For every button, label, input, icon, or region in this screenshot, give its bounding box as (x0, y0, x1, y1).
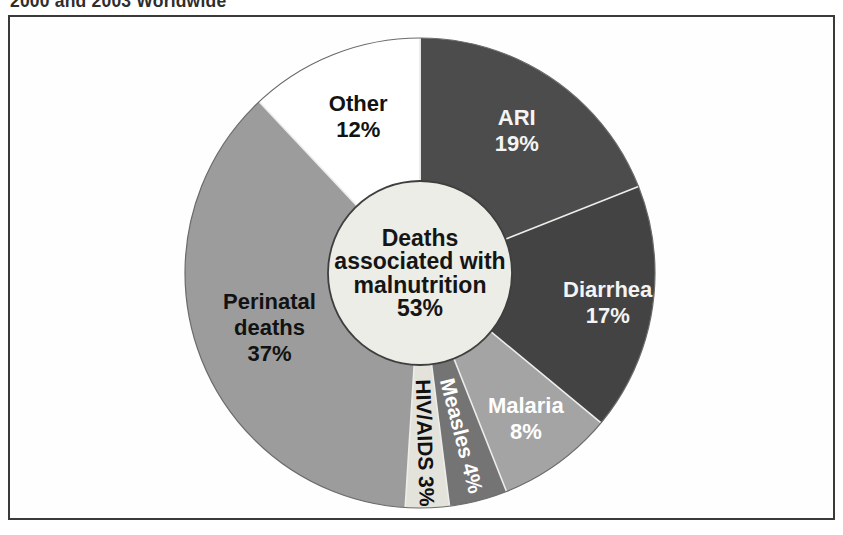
figure-scan: 2000 and 2003 Worldwide ARI19%Diarrhea17… (0, 0, 843, 535)
center-label-line: 53% (397, 295, 443, 321)
slice-label-text: 17% (586, 303, 630, 328)
slice-label-text: Other (329, 91, 388, 116)
slice-label-text: HIV/AIDS 3% (412, 379, 439, 507)
slice-label-hiv-aids: HIV/AIDS 3% (412, 379, 439, 507)
slice-label-text: Perinatal (223, 289, 316, 314)
center-label-line: Deaths (382, 225, 459, 251)
slice-label-text: ARI (498, 105, 536, 130)
slice-label-text: 37% (247, 341, 291, 366)
slice-label-text: Diarrhea (563, 277, 653, 302)
figure-caption: 2000 and 2003 Worldwide (10, 0, 226, 12)
slice-label-text: deaths (234, 315, 305, 340)
slice-label-other: Other12% (329, 91, 388, 142)
center-label-line: malnutrition (354, 272, 487, 298)
center-label-line: associated with (334, 248, 505, 274)
slice-label-ari: ARI19% (495, 105, 539, 156)
pie-chart-area: ARI19%Diarrhea17%Malaria8%Measles 4%HIV/… (150, 20, 710, 520)
slice-label-text: 8% (510, 419, 542, 444)
slice-label-text: 12% (336, 117, 380, 142)
slice-label-text: Malaria (488, 393, 565, 418)
pie-chart-svg: ARI19%Diarrhea17%Malaria8%Measles 4%HIV/… (150, 20, 710, 520)
slice-label-text: 19% (495, 131, 539, 156)
